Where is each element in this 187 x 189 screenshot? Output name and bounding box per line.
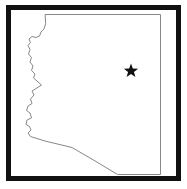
map-figure: Arizona Outline map of the state of Ariz… [0,0,187,189]
marker-layer [0,0,187,189]
star-location-marker[interactable] [124,64,138,78]
